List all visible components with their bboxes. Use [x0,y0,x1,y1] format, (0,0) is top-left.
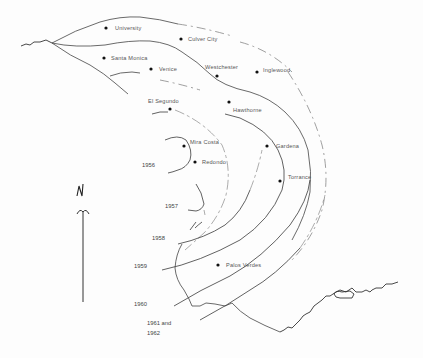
year-contours [152,110,398,332]
place-dot-icon [179,37,182,40]
year-label: 1956 [142,162,155,168]
place-label: Torrance [288,174,311,180]
year-label: 1961 and [147,320,171,326]
place-label: Redondo [202,159,226,165]
place-dot-icon [149,67,152,70]
year-label: 1960 [134,301,147,307]
year-label: 1957 [165,203,178,209]
place-dot-icon [255,70,258,73]
place-label: Culver City [188,36,218,42]
map-canvas: UniversityCulver CitySanta MonicaVeniceW… [0,0,423,358]
place-label: Mira Costa [190,139,220,145]
place-label: Gardena [276,143,300,149]
place-dot-icon [104,26,107,29]
place-label: Santa Monica [111,55,148,61]
place-dot-icon [216,263,219,266]
place-dot-icon [215,74,218,77]
place-dot-icon [182,144,185,147]
place-marker: Redondo [193,159,226,165]
year-label: 1958 [152,235,165,241]
place-marker: El Segundo [148,98,179,111]
year-label: 1962 [147,330,160,336]
place-marker: University [104,25,141,31]
place-dot-icon [168,107,171,110]
north-n-glyph [77,184,83,196]
place-label: University [115,25,142,31]
place-label: Westchester [205,64,238,70]
place-marker: Santa Monica [102,55,148,61]
year-label: 1959 [134,263,147,269]
north-arrow [77,184,89,302]
place-label: El Segundo [148,98,179,104]
place-label: Palos Verdes [226,262,261,268]
place-label: Hawthorne [233,107,262,113]
place-dot-icon [265,144,268,147]
place-marker: Palos Verdes [216,262,261,268]
map-figure: UniversityCulver CitySanta MonicaVeniceW… [0,0,423,358]
place-marker: Inglewood [255,67,290,74]
place-dot-icon [227,100,230,103]
place-marker: Torrance [278,174,311,183]
place-dot-icon [102,56,105,59]
place-marker: Gardena [265,143,299,149]
place-dot-icon [193,160,196,163]
place-label: Inglewood [263,67,290,73]
years-layer: 195619571958195919601961 and1962 [134,162,178,336]
place-label: Venice [159,66,177,72]
place-marker: Culver City [179,36,217,42]
boundary-east [240,42,326,262]
place-marker: Hawthorne [227,100,261,113]
place-dot-icon [278,179,281,182]
place-marker: Westchester [205,64,238,78]
place-marker: Venice [149,66,177,72]
